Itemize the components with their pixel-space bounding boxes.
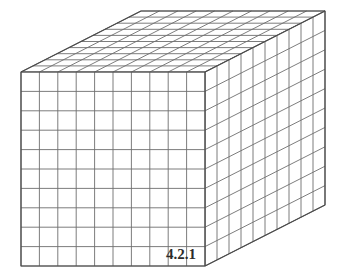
front-face — [21, 72, 205, 266]
cuboid-diagram — [0, 0, 346, 280]
figure-label: 4.2.1 — [166, 247, 196, 262]
cube-array-figure: 4.2.1 — [0, 0, 346, 280]
